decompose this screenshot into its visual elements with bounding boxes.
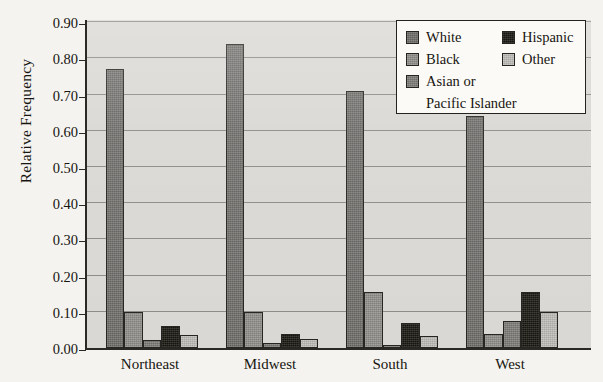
legend-item-asian-or[interactable]: Asian or [406, 72, 517, 94]
bar-black-midwest [244, 312, 262, 348]
legend-label-line2: Pacific Islander [426, 94, 517, 112]
bar-asian-pacific-islander-northeast [143, 340, 161, 348]
legend-label: Black [426, 50, 460, 69]
bar-group [106, 20, 198, 348]
y-tick-label: 0.60 [38, 124, 78, 141]
hispanic-swatch [502, 31, 515, 44]
legend-item-black[interactable]: Black [406, 50, 517, 72]
legend-item-other[interactable]: Other [502, 50, 574, 72]
legend-column-right: HispanicOther [502, 28, 574, 72]
x-tick-label: South [324, 356, 456, 373]
bar-group [226, 20, 318, 348]
y-tick-label: 0.00 [38, 341, 78, 358]
asian-swatch [406, 75, 419, 88]
y-axis-title: Relative Frequency [17, 11, 35, 231]
y-tick-label: 0.20 [38, 269, 78, 286]
legend-label: Asian or [426, 72, 476, 91]
y-tick-label: 0.80 [38, 51, 78, 68]
legend: WhiteBlackAsian orPacific Islander Hispa… [396, 20, 586, 114]
legend-item-white[interactable]: White [406, 28, 517, 50]
bar-white-west [466, 116, 484, 348]
bar-black-south [364, 292, 382, 348]
y-tick-label: 0.10 [38, 305, 78, 322]
y-tick-label: 0.30 [38, 232, 78, 249]
legend-item-hispanic[interactable]: Hispanic [502, 28, 574, 50]
y-tick-label: 0.70 [38, 88, 78, 105]
bar-asian-pacific-islander-west [503, 321, 521, 348]
bar-other-south [420, 336, 438, 348]
legend-label: White [426, 28, 461, 47]
x-tick-label: Midwest [204, 356, 336, 373]
x-tick-label: Northeast [84, 356, 216, 373]
bar-asian-pacific-islander-south [383, 345, 401, 348]
bar-white-midwest [226, 44, 244, 348]
legend-label: Hispanic [522, 28, 574, 47]
bar-other-west [540, 312, 558, 348]
y-tick-label: 0.50 [38, 160, 78, 177]
bar-white-northeast [106, 69, 124, 348]
bar-asian-pacific-islander-midwest [263, 343, 281, 348]
y-tick-label: 0.40 [38, 196, 78, 213]
bar-hispanic-south [401, 323, 419, 348]
legend-label: Other [522, 50, 555, 69]
bar-other-midwest [300, 339, 318, 348]
bar-hispanic-west [521, 292, 539, 348]
bar-black-west [484, 334, 502, 348]
y-tick-mark [79, 350, 86, 351]
bar-chart: Relative Frequency 0.000.100.200.300.400… [0, 0, 603, 382]
bar-hispanic-northeast [161, 326, 179, 348]
x-tick-label: West [444, 356, 576, 373]
cropped-title-remnant [0, 0, 603, 14]
y-tick-label: 0.90 [38, 15, 78, 32]
legend-column-left: WhiteBlackAsian orPacific Islander [406, 28, 517, 112]
bar-black-northeast [124, 312, 142, 348]
bar-hispanic-midwest [281, 334, 299, 348]
black-swatch [406, 53, 419, 66]
other-swatch [502, 53, 515, 66]
white-swatch [406, 31, 419, 44]
bar-other-northeast [180, 335, 198, 348]
bar-white-south [346, 91, 364, 348]
